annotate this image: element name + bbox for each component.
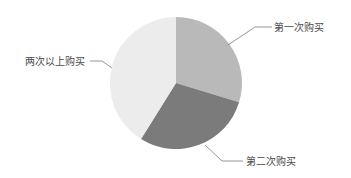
- leader-line-second: [205, 145, 243, 161]
- leader-line-first: [228, 27, 272, 45]
- label-second-purchase: 第二次购买: [246, 155, 296, 167]
- pie-chart: 第一次购买 第二次购买 两次以上购买: [0, 0, 351, 178]
- label-more-than-twice: 两次以上购买: [25, 55, 85, 67]
- leader-line-more: [90, 61, 112, 68]
- label-first-purchase: 第一次购买: [274, 21, 324, 33]
